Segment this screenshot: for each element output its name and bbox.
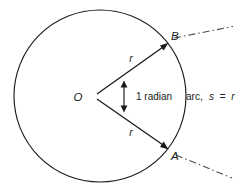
arc-label-variable-s: s <box>209 91 214 102</box>
angle-arrowhead-down-icon <box>121 105 128 112</box>
arc-label-variable-r: r <box>231 91 235 102</box>
radius-to-a-label: r <box>129 126 133 138</box>
arrowhead-b-icon <box>160 43 169 51</box>
radius-to-b-label: r <box>129 52 133 64</box>
diagram-canvas: O B A r r 1 radian arc, s = r <box>0 0 240 192</box>
extension-line-a-icon <box>176 155 232 178</box>
arc-label-group: arc, s = r <box>186 91 235 102</box>
center-point-label: O <box>74 91 83 103</box>
angle-label: 1 radian <box>136 91 172 102</box>
radian-diagram-figure: O B A r r 1 radian arc, s = r <box>0 0 240 192</box>
point-b-label: B <box>171 30 179 42</box>
extension-line-b-icon <box>174 27 233 39</box>
arc-label-prefix: arc, <box>186 91 203 102</box>
arc-label-equals: = <box>220 91 226 102</box>
arrowhead-a-icon <box>160 142 169 150</box>
point-a-label: A <box>170 150 179 162</box>
radius-to-a-line <box>97 99 165 146</box>
angle-arrowhead-up-icon <box>121 81 128 88</box>
